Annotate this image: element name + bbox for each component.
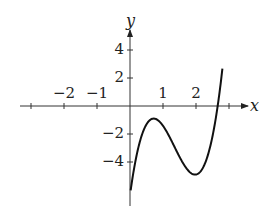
y-tick-label-2: 2	[114, 68, 124, 86]
x-tick-label-1: 1	[158, 84, 168, 102]
y-tick-label-neg2: −2	[102, 124, 124, 142]
y-tick-label-neg4: −4	[102, 152, 124, 170]
x-tick-label-neg1: −1	[86, 84, 108, 102]
x-tick-label-2: 2	[191, 84, 201, 102]
x-tick-label-neg2: −2	[53, 84, 75, 102]
y-axis-label: y	[125, 11, 136, 30]
y-tick-label-4: 4	[114, 40, 124, 58]
cubic-function-graph: −2 −1 1 2 4 2 −2 −4 x y	[0, 0, 268, 213]
x-axis-label: x	[250, 96, 259, 115]
cubic-curve	[131, 69, 223, 191]
